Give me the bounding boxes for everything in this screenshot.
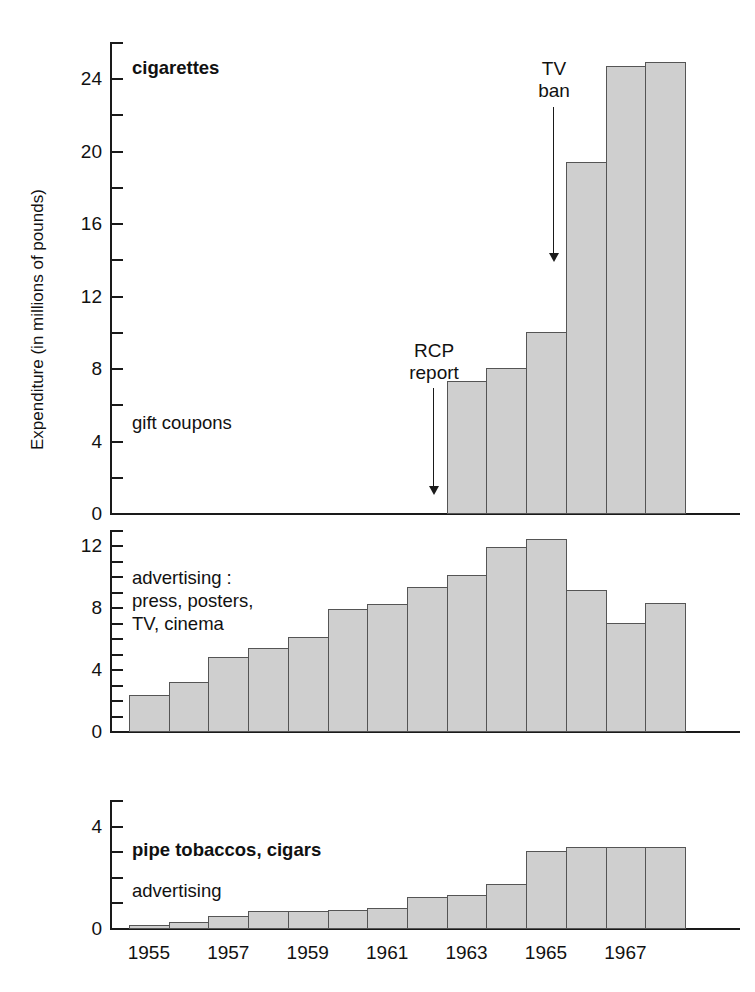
y-axis-line-bottom xyxy=(110,800,112,930)
table-row xyxy=(208,916,249,929)
y-tick-label-bottom-0: 0 xyxy=(58,919,102,938)
y-tick-bottom-5 xyxy=(110,800,123,802)
table-row xyxy=(566,847,607,929)
chart-figure: Expenditure (in millions of pounds) ciga… xyxy=(0,0,755,992)
table-row xyxy=(447,895,487,929)
x-tick-label-1957: 1957 xyxy=(188,943,268,962)
table-row xyxy=(129,925,170,929)
y-tick-bottom-0 xyxy=(110,928,123,930)
x-tick-label-1955: 1955 xyxy=(109,943,189,962)
table-row xyxy=(606,847,646,929)
panel-pipe-tobaccos: pipe tobaccos, cigars advertising 40 xyxy=(0,0,755,992)
table-row xyxy=(407,897,448,929)
y-tick-bottom-2 xyxy=(110,877,123,879)
table-row xyxy=(645,847,686,929)
panel-bottom-label-main: pipe tobaccos, cigars xyxy=(132,838,321,861)
table-row xyxy=(248,911,289,929)
x-tick-label-1961: 1961 xyxy=(347,943,427,962)
table-row xyxy=(328,910,368,929)
x-tick-label-1959: 1959 xyxy=(268,943,348,962)
y-tick-bottom-1 xyxy=(110,902,123,904)
x-tick-label-1967: 1967 xyxy=(585,943,665,962)
y-tick-bottom-4 xyxy=(110,826,123,828)
x-tick-label-1965: 1965 xyxy=(506,943,586,962)
table-row xyxy=(288,911,329,929)
x-tick-label-1963: 1963 xyxy=(427,943,507,962)
panel-bottom-label-sub: advertising xyxy=(132,879,221,902)
y-tick-bottom-3 xyxy=(110,851,123,853)
table-row xyxy=(526,851,567,929)
y-tick-label-bottom-4: 4 xyxy=(58,817,102,836)
table-row xyxy=(169,922,209,929)
table-row xyxy=(486,884,527,929)
table-row xyxy=(367,908,408,929)
